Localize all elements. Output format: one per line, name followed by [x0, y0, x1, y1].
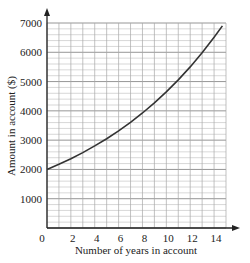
x-tick-label: 2 — [70, 232, 76, 244]
tick-labels: 024681012141000200030004000500060007000 — [20, 17, 222, 244]
y-tick-label: 5000 — [20, 76, 43, 88]
x-axis-arrow-icon — [232, 225, 240, 231]
grid — [47, 23, 226, 228]
x-tick-label: 12 — [187, 232, 198, 244]
y-tick-label: 3000 — [20, 134, 43, 146]
x-tick-label: 10 — [163, 232, 175, 244]
x-tick-label: 14 — [211, 232, 223, 244]
y-tick-label: 4000 — [20, 105, 43, 117]
y-tick-label: 7000 — [20, 17, 43, 29]
x-tick-label: 6 — [118, 232, 124, 244]
y-tick-label: 6000 — [20, 46, 43, 58]
y-tick-label: 1000 — [20, 193, 43, 205]
x-tick-label: 0 — [39, 232, 45, 244]
x-axis-label: Number of years in account — [75, 244, 197, 256]
chart: 024681012141000200030004000500060007000 … — [0, 0, 250, 263]
y-axis-arrow-icon — [44, 8, 50, 16]
data-curve — [47, 26, 222, 170]
y-tick-label: 2000 — [20, 163, 43, 175]
y-axis-label: Amount in account ($) — [5, 76, 18, 176]
x-tick-label: 4 — [94, 232, 100, 244]
x-tick-label: 8 — [142, 232, 148, 244]
